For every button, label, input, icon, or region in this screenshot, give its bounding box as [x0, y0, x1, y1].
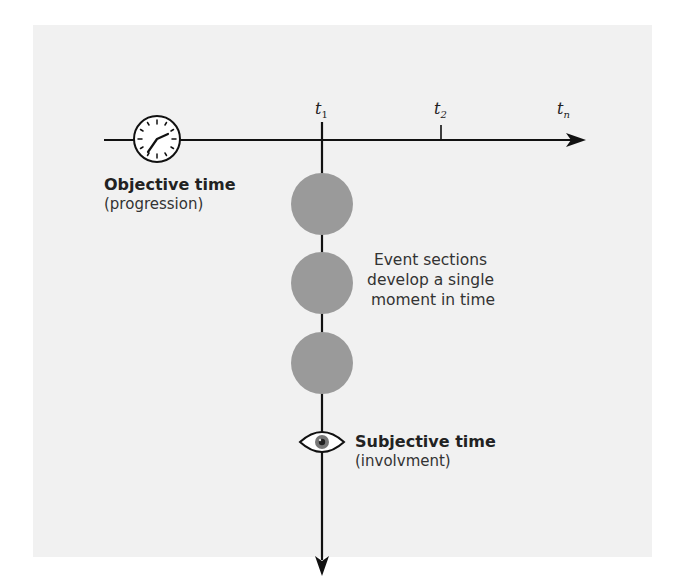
event-section-1	[291, 173, 353, 235]
objective-time-title: Objective time	[104, 175, 236, 194]
time-diagram: t1 t2 tn Objective time (progression) Ev	[0, 0, 687, 585]
eye-icon	[300, 432, 344, 452]
event-caption: Event sections develop a single moment i…	[367, 251, 499, 309]
tick-label-tn: tn	[557, 99, 570, 120]
objective-time-subtitle: (progression)	[104, 195, 203, 213]
tick-label-t1: t1	[315, 99, 328, 120]
subjective-time-title: Subjective time	[355, 432, 496, 451]
event-section-2	[291, 252, 353, 314]
subjective-time-subtitle: (involvment)	[355, 452, 451, 470]
event-section-3	[291, 332, 353, 394]
clock-icon	[134, 116, 180, 162]
tick-label-t2: t2	[434, 99, 447, 120]
